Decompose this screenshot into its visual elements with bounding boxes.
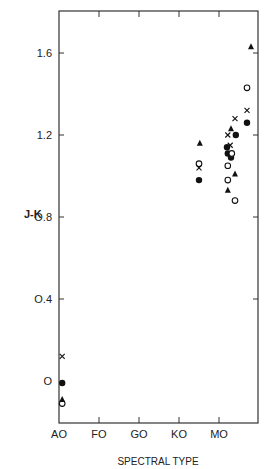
cross-marker — [225, 133, 230, 138]
plot-border — [59, 11, 258, 423]
data-points — [59, 43, 254, 406]
y-tick-label: 1.6 — [37, 47, 52, 59]
triangle-marker — [232, 170, 238, 176]
y-tick-label: O — [43, 375, 52, 387]
y-axis-label: J-K — [24, 208, 42, 220]
cross-marker — [233, 116, 238, 121]
filled-circle-marker — [196, 177, 202, 183]
x-tick-label: GO — [130, 428, 148, 440]
x-axis-ticks: AOFOGOKOMO — [51, 11, 228, 440]
open-circle-marker — [225, 177, 231, 183]
x-tick-label: KO — [171, 428, 187, 440]
open-circle-marker — [229, 151, 235, 157]
x-tick-label: MO — [210, 428, 228, 440]
triangle-marker — [228, 125, 234, 131]
x-axis-label: SPECTRAL TYPE — [117, 456, 198, 467]
filled-circle-marker — [233, 132, 239, 138]
filled-circle-marker — [244, 120, 250, 126]
triangle-marker — [197, 140, 203, 146]
x-tick-label: FO — [91, 428, 107, 440]
y-tick-label: O.4 — [34, 293, 52, 305]
triangle-marker — [225, 187, 231, 193]
open-circle-marker — [244, 85, 250, 91]
scatter-chart: OO.4O.81.21.6 AOFOGOKOMO J-K SPECTRAL TY… — [0, 0, 270, 469]
plot-frame — [59, 11, 258, 423]
x-tick-label: AO — [51, 428, 67, 440]
filled-circle-marker — [59, 380, 65, 386]
open-circle-marker — [232, 198, 238, 204]
y-axis-ticks: OO.4O.81.21.6 — [34, 47, 258, 387]
open-circle-marker — [225, 163, 231, 169]
cross-marker — [60, 354, 65, 359]
triangle-marker — [248, 43, 254, 49]
cross-marker — [245, 108, 250, 113]
triangle-marker — [59, 396, 65, 402]
y-tick-label: 1.2 — [37, 129, 52, 141]
